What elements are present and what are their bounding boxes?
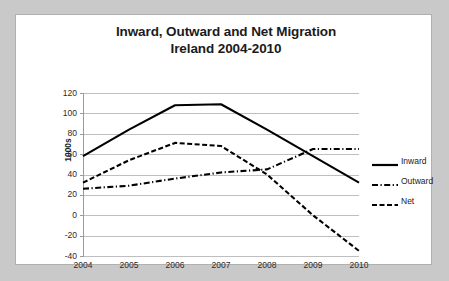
y-tick-label: -20 (49, 231, 77, 240)
x-tick-label: 2010 (339, 261, 379, 270)
legend-swatch-net-icon (372, 196, 398, 206)
legend-label: Inward (401, 156, 427, 166)
y-tick-label: 0 (49, 211, 77, 220)
y-tick-mark (80, 256, 84, 257)
chart-page: Inward, Outward and Net Migration Irelan… (0, 0, 449, 281)
y-tick-label: 80 (49, 129, 77, 138)
series-line-inward (83, 104, 359, 182)
y-tick-label: 20 (49, 190, 77, 199)
chart-card: Inward, Outward and Net Migration Irelan… (15, 14, 432, 265)
y-tick-label: 120 (49, 89, 77, 98)
x-tick-label: 2009 (293, 261, 333, 270)
chart-title-line-2: Ireland 2004-2010 (56, 40, 396, 57)
legend-swatch-outward-icon (372, 176, 398, 186)
x-tick-label: 2008 (247, 261, 287, 270)
plot-area: 1000s 120100806040200-20-40 200420052006… (68, 79, 359, 255)
x-tick-label: 2006 (155, 261, 195, 270)
series-lines (83, 93, 359, 256)
legend-swatch-inward-icon (372, 156, 398, 166)
y-tick-label: 60 (49, 150, 77, 159)
legend-label: Outward (401, 176, 433, 186)
chart-legend: InwardOutwardNet (372, 151, 448, 211)
x-tick-label: 2004 (63, 261, 103, 270)
legend-item-net[interactable]: Net (372, 191, 448, 211)
x-tick-label: 2007 (201, 261, 241, 270)
legend-label: Net (401, 196, 414, 206)
legend-item-inward[interactable]: Inward (372, 151, 448, 171)
gridline (83, 256, 359, 257)
series-line-outward (83, 149, 359, 189)
x-tick-label: 2005 (109, 261, 149, 270)
y-tick-label: 40 (49, 170, 77, 179)
y-tick-label: -40 (49, 252, 77, 261)
chart-title: Inward, Outward and Net Migration Irelan… (56, 23, 396, 57)
y-tick-label: 100 (49, 109, 77, 118)
axis-box: 120100806040200-20-40 200420052006200720… (83, 93, 359, 255)
legend-item-outward[interactable]: Outward (372, 171, 448, 191)
chart-title-line-1: Inward, Outward and Net Migration (116, 24, 336, 39)
